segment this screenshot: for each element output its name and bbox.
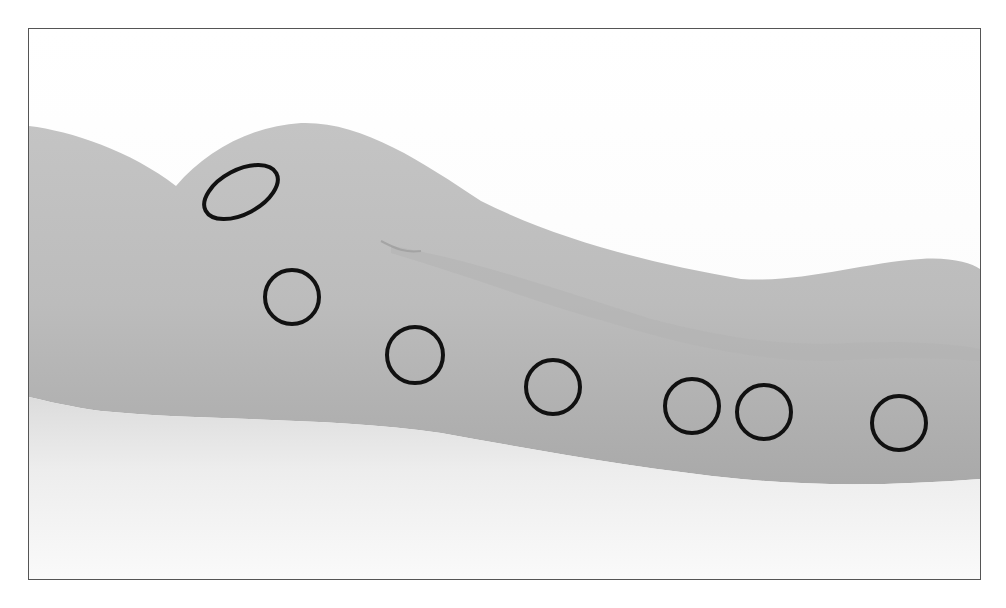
figure-frame xyxy=(28,28,981,580)
reference-photo xyxy=(29,29,980,579)
